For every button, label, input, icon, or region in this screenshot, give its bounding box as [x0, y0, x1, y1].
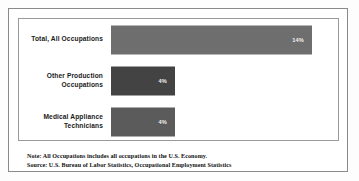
bar-value-label: 14% — [292, 37, 312, 43]
category-label-line1: Other Production — [47, 72, 103, 79]
footnote-source: Source: U.S. Bureau of Labor Statistics,… — [27, 161, 337, 170]
category-label-other-production-occupations: Other Production Occupations — [19, 72, 111, 89]
category-label-medical-appliance-technicians: Medical Appliance Technicians — [19, 113, 111, 130]
footnote-note: Note: All Occupations includes all occup… — [27, 152, 337, 161]
category-label-line1: Total, All Occupations — [31, 35, 103, 42]
chart-figure: Total, All Occupations 14% Other Product… — [0, 0, 359, 181]
bar-row: Medical Appliance Technicians 4% — [19, 101, 338, 142]
bar-other-production-occupations: 4% — [111, 66, 175, 95]
bar-value-label: 4% — [159, 78, 175, 84]
bar-total-all-occupations: 14% — [111, 25, 312, 54]
category-label-line2: Technicians — [64, 122, 103, 129]
bar-medical-appliance-technicians: 4% — [111, 107, 175, 136]
category-label-total-all-occupations: Total, All Occupations — [19, 35, 111, 44]
bar-row: Total, All Occupations 14% — [19, 19, 338, 60]
bar-track: 14% — [111, 19, 338, 60]
bar-track: 4% — [111, 60, 338, 101]
category-label-line1: Medical Appliance — [43, 113, 103, 120]
bar-row: Other Production Occupations 4% — [19, 60, 338, 101]
chart-outer-frame: Total, All Occupations 14% Other Product… — [8, 8, 348, 172]
chart-footnotes: Note: All Occupations includes all occup… — [27, 152, 337, 171]
plot-area: Total, All Occupations 14% Other Product… — [18, 18, 339, 141]
bar-track: 4% — [111, 101, 338, 142]
bar-value-label: 4% — [159, 119, 175, 125]
category-label-line2: Occupations — [62, 81, 103, 88]
